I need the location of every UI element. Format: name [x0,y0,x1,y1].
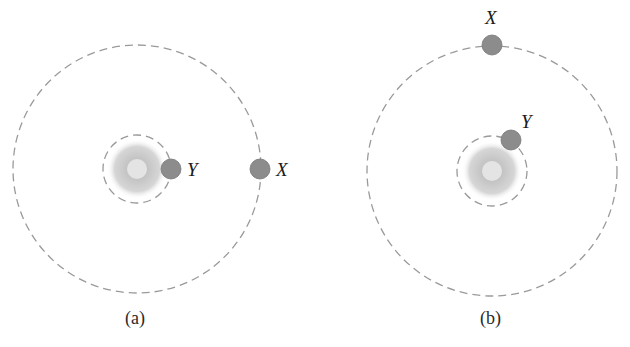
label-x: X [484,7,498,28]
label-x: X [275,159,289,180]
label-y: Y [521,111,534,132]
panel-a: Y X (a) [13,45,289,329]
label-y: Y [187,159,200,180]
central-star-core [127,159,147,179]
panel-b: X Y (b) [367,7,617,329]
orbit-diagram: Y X (a) X Y (b) [0,0,630,347]
body-y [501,130,521,150]
caption-a: (a) [125,308,145,329]
body-x [250,159,270,179]
caption-b: (b) [480,308,501,329]
body-x [482,35,502,55]
body-y [161,159,181,179]
central-star-core [482,161,502,181]
